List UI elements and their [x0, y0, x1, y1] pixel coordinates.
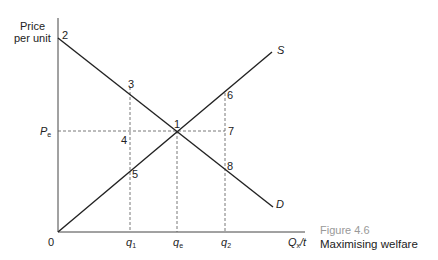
demand-label: D [276, 198, 284, 210]
qe-label: qe [173, 236, 183, 252]
supply-curve [58, 52, 272, 232]
point-3-label: 3 [128, 78, 134, 90]
demand-curve [58, 38, 273, 207]
point-6-label: 6 [227, 89, 233, 101]
point-2-label: 2 [62, 29, 68, 41]
pe-label: Pe [40, 125, 51, 141]
x-axis-label: Qx/t [288, 236, 306, 252]
q2-label: q2 [221, 236, 231, 252]
point-5-label: 5 [132, 168, 138, 180]
point-1-label: 1 [174, 118, 180, 130]
origin-label: 0 [48, 236, 54, 248]
point-7-label: 7 [228, 125, 234, 137]
y-axis-label-line2: per unit [14, 32, 51, 44]
supply-label: S [277, 44, 284, 56]
figure-title: Maximising welfare [320, 238, 418, 250]
q1-label: q1 [126, 236, 136, 252]
y-axis-label-line1: Price [20, 20, 45, 32]
figure-number: Figure 4.6 [320, 224, 370, 236]
point-8-label: 8 [227, 160, 233, 172]
point-4-label: 4 [121, 134, 127, 146]
